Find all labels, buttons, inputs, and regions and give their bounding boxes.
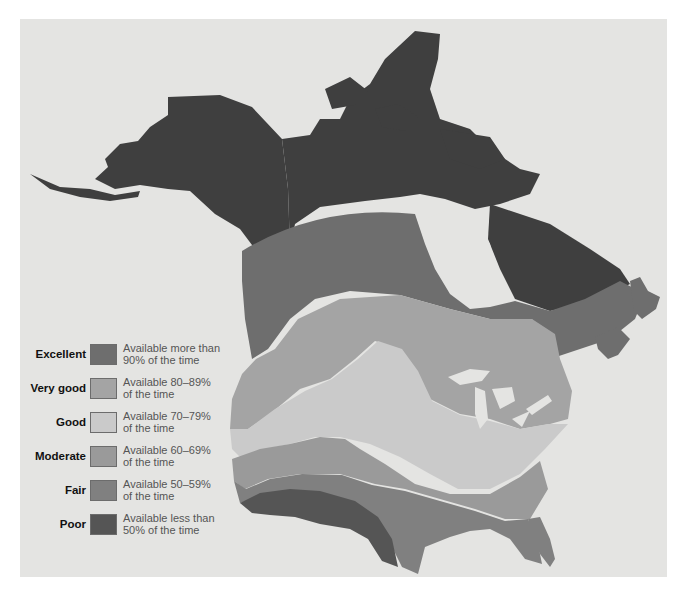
legend-desc-line2: 50% of the time <box>123 524 233 536</box>
legend-desc-line2: of the time <box>123 490 233 502</box>
legend-swatch-moderate <box>90 446 117 467</box>
legend-item-very-good: Very good Available 80–89% of the time <box>0 376 210 410</box>
legend-desc-line2: 90% of the time <box>123 354 233 366</box>
legend-label: Very good <box>30 382 86 394</box>
legend-label: Poor <box>60 518 86 530</box>
legend-desc-line2: of the time <box>123 456 233 468</box>
legend-label: Good <box>56 416 86 428</box>
legend-description: Available less than 50% of the time <box>123 512 233 536</box>
legend-desc-line1: Available 70–79% <box>123 410 233 422</box>
legend-desc-line1: Available less than <box>123 512 233 524</box>
legend-swatch-poor <box>90 514 117 535</box>
legend-desc-line1: Available 80–89% <box>123 376 233 388</box>
legend-item-fair: Fair Available 50–59% of the time <box>0 478 210 512</box>
legend-item-good: Good Available 70–79% of the time <box>0 410 210 444</box>
legend-description: Available 60–69% of the time <box>123 444 233 468</box>
legend-swatch-excellent <box>90 344 117 365</box>
legend-label: Moderate <box>35 450 86 462</box>
legend-desc-line2: of the time <box>123 388 233 400</box>
legend-swatch-fair <box>90 480 117 501</box>
legend-description: Available 80–89% of the time <box>123 376 233 400</box>
legend-swatch-very-good <box>90 378 117 399</box>
legend-item-poor: Poor Available less than 50% of the time <box>0 512 210 546</box>
legend-description: Available more than 90% of the time <box>123 342 233 366</box>
legend-label: Fair <box>65 484 86 496</box>
legend-item-excellent: Excellent Available more than 90% of the… <box>0 342 210 376</box>
legend-label: Excellent <box>36 348 87 360</box>
legend-swatch-good <box>90 412 117 433</box>
legend-desc-line1: Available more than <box>123 342 233 354</box>
legend-desc-line2: of the time <box>123 422 233 434</box>
legend-desc-line1: Available 50–59% <box>123 478 233 490</box>
legend-description: Available 70–79% of the time <box>123 410 233 434</box>
legend-item-moderate: Moderate Available 60–69% of the time <box>0 444 210 478</box>
legend-desc-line1: Available 60–69% <box>123 444 233 456</box>
legend-description: Available 50–59% of the time <box>123 478 233 502</box>
